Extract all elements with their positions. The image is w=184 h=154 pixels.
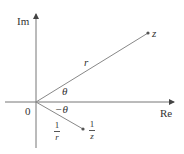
reciprocal-point-label: 1 z (89, 120, 95, 141)
fraction-denominator: r (55, 133, 59, 142)
neg-theta-label: −θ (55, 104, 68, 115)
real-axis-label: Re (160, 108, 172, 119)
reciprocal-modulus-label: 1 r (54, 121, 60, 142)
reciprocal-point (81, 127, 84, 130)
fraction-numerator: 1 (55, 121, 60, 130)
z-point (146, 31, 149, 34)
fraction-denominator: z (90, 132, 94, 141)
theta-label: θ (62, 86, 67, 97)
z-vector (36, 33, 148, 102)
modulus-r-label: r (84, 57, 88, 68)
imaginary-axis-label: Im (17, 16, 29, 27)
z-label: z (152, 28, 156, 39)
origin-label: 0 (25, 106, 31, 117)
fraction-numerator: 1 (90, 120, 95, 129)
